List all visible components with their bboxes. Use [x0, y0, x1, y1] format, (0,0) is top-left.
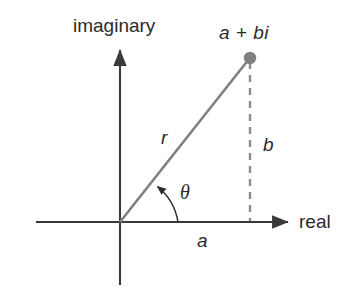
imaginary-axis-label: imaginary — [73, 16, 155, 35]
radius-label: r — [161, 128, 167, 147]
complex-point-marker — [244, 52, 256, 64]
complex-point-label: a + bi — [219, 23, 269, 42]
figure-canvas: imaginary real a + bi r b a θ — [0, 0, 340, 293]
imaginary-component-label: b — [263, 135, 274, 154]
angle-arc — [158, 187, 179, 223]
angle-label: θ — [180, 182, 190, 202]
real-component-label: a — [197, 231, 208, 250]
complex-plane-diagram — [0, 0, 340, 293]
real-axis-label: real — [299, 212, 331, 231]
